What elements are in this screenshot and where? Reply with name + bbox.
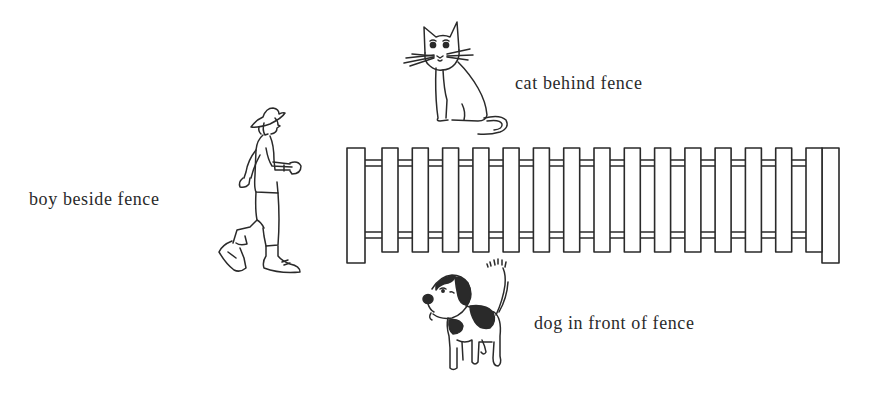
cat-drawing — [404, 22, 507, 134]
fence-picket — [776, 148, 792, 252]
fence-picket — [745, 148, 761, 252]
fence-picket — [473, 148, 489, 252]
fence-picket — [624, 148, 640, 252]
fence-picket — [806, 148, 822, 252]
fence-picket — [443, 148, 459, 252]
fence-picket — [533, 148, 549, 252]
boy-drawing — [219, 108, 301, 273]
fence-picket — [655, 148, 671, 252]
fence-post-right — [822, 148, 839, 263]
label-cat-behind-fence: cat behind fence — [515, 73, 643, 94]
fence-picket — [685, 148, 701, 252]
fence-picket — [594, 148, 610, 252]
fence-pickets — [382, 148, 822, 252]
fence-picket — [503, 148, 519, 252]
fence-picket — [715, 148, 731, 252]
fence-post-left — [347, 148, 365, 263]
fence-picket — [412, 148, 428, 252]
fence-picket — [564, 148, 580, 252]
label-boy-beside-fence: boy beside fence — [29, 189, 160, 210]
dog-drawing — [423, 259, 508, 370]
fence-picket — [382, 148, 398, 252]
illustration-canvas: cat behind fence boy beside fence dog in… — [0, 0, 871, 398]
label-dog-in-front-of-fence: dog in front of fence — [534, 313, 695, 334]
fence — [347, 148, 839, 263]
